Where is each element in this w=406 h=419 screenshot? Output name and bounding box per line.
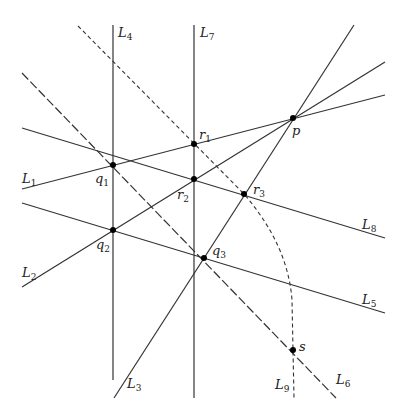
curve-L9 [78,26,294,398]
label-q2: q2 [96,238,110,254]
point-r1 [191,141,197,147]
point-r2 [191,176,197,182]
point-q3 [201,255,207,261]
label-r1: r1 [199,128,211,144]
point-s [290,347,296,353]
label-r3: r3 [253,183,265,199]
label-L7: L7 [200,26,214,42]
label-r2: r2 [177,188,189,204]
line-L8 [22,128,385,238]
point-r3 [241,191,247,197]
line-configuration-diagram: L1 L2 L3 L4 L5 L6 L7 L8 L9 p q1 q2 q3 r1… [0,0,406,419]
label-L6: L6 [336,373,350,389]
point-q1 [110,162,116,168]
label-L3: L3 [127,377,141,393]
label-L9: L9 [275,378,289,394]
label-L4: L4 [118,26,132,42]
label-L2: L2 [22,266,36,282]
point-q2 [110,227,116,233]
label-L5: L5 [362,293,376,309]
label-p: p [292,124,300,140]
label-L8: L8 [362,218,376,234]
label-q3: q3 [212,244,226,260]
label-q1: q1 [95,172,109,188]
label-s: s [299,340,306,356]
label-L1: L1 [22,172,36,188]
line-L3 [114,25,354,398]
point-p [290,115,296,121]
diagram-svg [0,0,406,419]
